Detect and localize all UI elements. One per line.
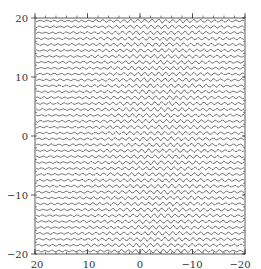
waveform-trace bbox=[36, 149, 244, 153]
x-axis-labels: 20 10 0 −10 −20 bbox=[31, 259, 251, 269]
waveform-trace bbox=[36, 155, 244, 159]
waveform-trace bbox=[36, 66, 244, 70]
waveform-trace bbox=[36, 43, 244, 47]
waveform-trace bbox=[36, 166, 244, 170]
waveform-chart: 20 10 0 −10 −20 20 10 0 −10 −20 bbox=[0, 0, 261, 269]
waveform-trace bbox=[36, 137, 244, 141]
waveform-trace bbox=[36, 184, 244, 188]
x-tick-label: −20 bbox=[229, 259, 250, 269]
y-tick-label: −20 bbox=[7, 249, 28, 260]
waveform-trace bbox=[36, 220, 244, 224]
waveform-trace bbox=[36, 107, 244, 111]
waveform-trace bbox=[36, 173, 244, 177]
waveform-trace bbox=[36, 178, 244, 182]
y-tick-label: 0 bbox=[22, 131, 28, 142]
waveform-trace bbox=[36, 231, 244, 235]
y-tick-label: −10 bbox=[7, 190, 28, 201]
waveform-trace bbox=[36, 237, 244, 241]
x-tick-label: 20 bbox=[31, 259, 44, 269]
waveform-trace bbox=[36, 84, 244, 88]
y-tick-label: 10 bbox=[15, 72, 28, 83]
waveform-traces bbox=[36, 19, 244, 253]
waveform-trace bbox=[36, 243, 244, 247]
waveform-trace bbox=[36, 196, 244, 200]
waveform-trace bbox=[36, 114, 244, 118]
waveform-trace bbox=[36, 31, 244, 35]
waveform-trace bbox=[36, 37, 244, 41]
waveform-trace bbox=[36, 90, 244, 94]
plot-frame bbox=[35, 18, 245, 254]
x-tick-label: −10 bbox=[181, 259, 202, 269]
waveform-trace bbox=[36, 102, 244, 106]
waveform-trace bbox=[36, 96, 244, 100]
waveform-trace bbox=[36, 72, 244, 76]
waveform-trace bbox=[36, 161, 244, 165]
y-axis-labels: 20 10 0 −10 −20 bbox=[7, 13, 28, 260]
waveform-trace bbox=[36, 208, 244, 212]
waveform-trace bbox=[36, 78, 244, 82]
waveform-trace bbox=[36, 202, 244, 206]
x-tick-label: 10 bbox=[83, 259, 96, 269]
x-tick-label: 0 bbox=[137, 259, 143, 269]
waveform-trace bbox=[36, 19, 244, 23]
waveform-trace bbox=[36, 60, 244, 64]
waveform-trace bbox=[36, 131, 244, 135]
y-tick-label: 20 bbox=[15, 13, 28, 24]
waveform-trace bbox=[36, 225, 244, 229]
waveform-trace bbox=[36, 25, 244, 29]
waveform-trace bbox=[36, 143, 244, 147]
waveform-trace bbox=[36, 54, 244, 58]
waveform-trace bbox=[36, 214, 244, 218]
waveform-trace bbox=[36, 48, 244, 52]
waveform-trace bbox=[36, 125, 244, 129]
waveform-trace bbox=[36, 190, 244, 194]
waveform-trace bbox=[36, 119, 244, 123]
